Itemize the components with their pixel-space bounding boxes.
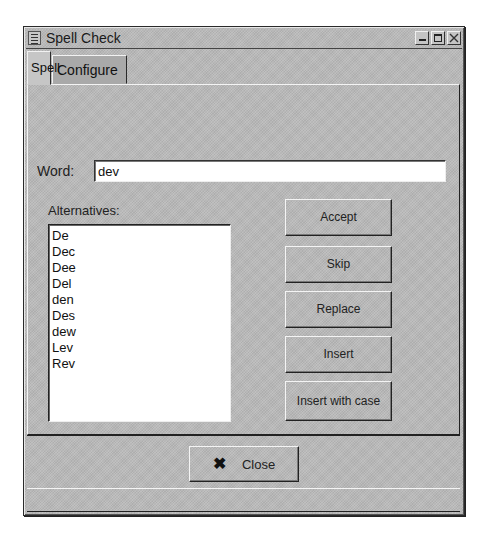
close-icon — [448, 32, 460, 44]
status-bar — [27, 488, 460, 512]
list-item[interactable]: Del — [52, 276, 230, 292]
list-item[interactable]: Rev — [52, 356, 230, 372]
accept-button[interactable]: Accept — [285, 199, 392, 236]
list-item[interactable]: Lev — [52, 340, 230, 356]
close-button-label: Close — [242, 457, 275, 472]
maximize-icon — [434, 34, 442, 42]
title-bar[interactable]: Spell Check — [26, 29, 462, 49]
replace-button[interactable]: Replace — [285, 291, 392, 328]
insert-with-case-button[interactable]: Insert with case — [285, 381, 392, 421]
window-title: Spell Check — [46, 30, 121, 46]
tab-spell-label: Spell — [31, 60, 60, 75]
tab-configure[interactable]: Configure — [52, 55, 127, 84]
word-label: Word: — [37, 163, 74, 179]
spell-check-window: Spell Check Spell Configure Word: Altern… — [23, 26, 465, 516]
tab-spell[interactable]: Spell — [27, 51, 51, 85]
minimize-button[interactable] — [415, 31, 429, 45]
list-item[interactable]: Des — [52, 308, 230, 324]
insert-button[interactable]: Insert — [285, 336, 392, 373]
list-item[interactable]: Dee — [52, 260, 230, 276]
word-input[interactable] — [94, 160, 446, 182]
list-item[interactable]: Dec — [52, 244, 230, 260]
close-button[interactable]: ✖Close — [189, 446, 299, 482]
x-icon: ✖ — [213, 455, 226, 472]
window-menu-icon[interactable] — [28, 31, 41, 45]
list-item[interactable]: den — [52, 292, 230, 308]
close-window-button[interactable] — [447, 31, 461, 45]
tab-configure-label: Configure — [57, 62, 118, 78]
spell-tab-panel: Word: Alternatives: De Dec Dee Del den D… — [27, 84, 460, 435]
alternatives-listbox[interactable]: De Dec Dee Del den Des dew Lev Rev — [48, 224, 231, 422]
alternatives-label: Alternatives: — [48, 203, 120, 218]
dialog-button-area: ✖Close — [27, 435, 460, 492]
list-item[interactable]: De — [52, 228, 230, 244]
minimize-icon — [419, 39, 426, 41]
skip-button[interactable]: Skip — [285, 246, 392, 283]
maximize-button[interactable] — [431, 31, 445, 45]
list-item[interactable]: dew — [52, 324, 230, 340]
